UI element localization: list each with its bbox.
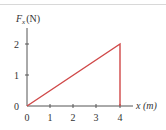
x-tick-label-3: 3 xyxy=(94,112,99,123)
chart-svg: 0 1 2 0 1 2 3 4 Fx(N) x (m) xyxy=(0,0,166,130)
x-tick-label-0: 0 xyxy=(25,112,30,123)
y-tick-label-2: 2 xyxy=(14,39,19,50)
y-axis-label: Fx(N) xyxy=(15,13,40,26)
force-position-chart: 0 1 2 0 1 2 3 4 Fx(N) x (m) xyxy=(0,0,166,130)
top-border-line xyxy=(0,4,166,5)
y-label-unit: (N) xyxy=(26,13,40,25)
x-tick-label-2: 2 xyxy=(71,112,76,123)
x-tick-label-4: 4 xyxy=(118,112,123,123)
x-tick-label-1: 1 xyxy=(48,112,53,123)
force-series-line xyxy=(27,44,120,106)
y-tick-label-1: 1 xyxy=(14,70,19,81)
x-axis-label: x (m) xyxy=(135,100,157,112)
y-tick-label-0: 0 xyxy=(14,101,19,112)
